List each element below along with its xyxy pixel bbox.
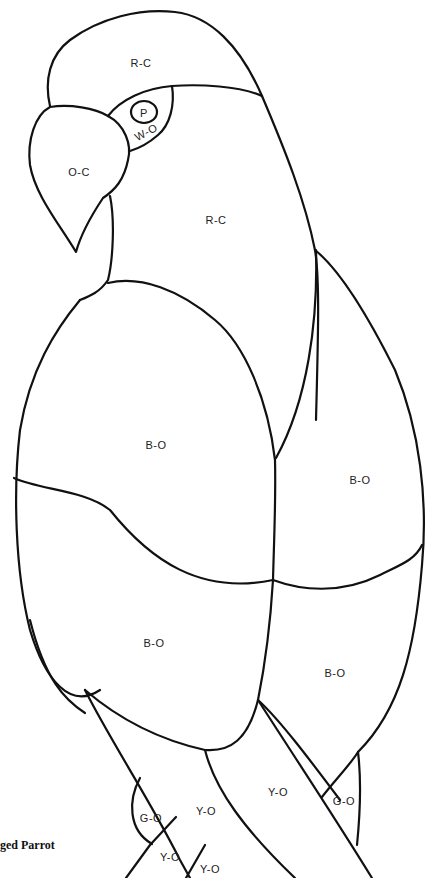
region-label-neck: R-C [205, 214, 226, 226]
wing-divider-left [14, 478, 273, 584]
parrot-pattern-drawing [0, 0, 430, 878]
neck-front [80, 196, 113, 300]
beak-outline [29, 106, 129, 252]
wing-lower-left-bottom [85, 580, 273, 750]
region-label-tail-center-left: Y-O [196, 805, 216, 817]
region-label-wing-upper-left: B-O [145, 439, 166, 451]
wing-divider-right [273, 545, 422, 589]
region-label-wing-upper-right: B-O [349, 474, 370, 486]
region-label-head-top: R-C [130, 57, 151, 69]
region-label-eye-pupil: P [140, 107, 148, 119]
crown-divider [172, 85, 262, 96]
region-label-tail-center-right: Y-O [268, 786, 288, 798]
tail-cross-left [126, 817, 176, 878]
region-label-foot-left: G-O [140, 812, 162, 824]
figure-caption: ged Parrot [0, 838, 55, 853]
region-label-tail-low-1: Y-O [160, 851, 180, 863]
back-line [262, 96, 318, 420]
head-outline [48, 11, 262, 106]
tail-strip-2 [205, 750, 295, 878]
region-label-tail-low-2: Y-O [200, 863, 220, 875]
body-left-lower [30, 620, 85, 713]
right-inner-curve [276, 250, 316, 458]
foot-left-outline [132, 778, 152, 844]
region-label-wing-lower-right: B-O [324, 667, 345, 679]
region-label-foot-right: G-O [333, 795, 355, 807]
region-label-wing-lower-left: B-O [143, 637, 164, 649]
wing-lower-right-edge [258, 700, 340, 800]
region-label-beak: O-C [68, 166, 90, 178]
